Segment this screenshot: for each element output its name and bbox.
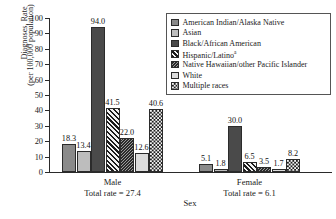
y-tick-label: 20 [35,137,43,146]
x-axis-title: Sex [184,198,197,208]
bar [149,109,163,172]
bar [272,169,286,172]
group-total-rate: Total rate = 6.1 [223,188,275,199]
y-tick-label: 30 [35,121,43,130]
legend-label: White [183,71,203,80]
checkerboard-swatch [171,82,179,90]
x-axis-line [49,172,332,173]
bar [257,167,271,172]
legend-item: American Indian/Alaska Native [171,17,326,28]
bar-value-label: 40.6 [149,99,163,108]
bar [91,27,105,172]
bar-value-label: 1.8 [215,159,225,168]
legend-item: Native Hawaiian/other Pacific Islander [171,59,326,70]
legend-item: White [171,70,326,81]
bar-value-label: 6.5 [244,152,254,161]
bar-value-label: 5.1 [201,154,211,163]
bar-chart: Diagnoses, Rate (per 100,000 population)… [0,0,336,219]
legend-label: Native Hawaiian/other Pacific Islander [183,60,308,69]
bar-value-label: 3.5 [259,157,269,166]
solid-dark-gray-swatch [171,40,179,48]
bar [286,159,300,172]
legend-footnote-marker: a [234,49,236,55]
legend: American Indian/Alaska NativeAsianBlack/… [166,13,331,95]
y-tick-mark [45,172,49,173]
group-label-male: MaleTotal rate = 27.4 [84,177,141,199]
solid-medium-gray-swatch [171,19,179,27]
y-tick-label: 10 [35,152,43,161]
bar-value-label: 94.0 [91,17,105,26]
y-tick-label: 80 [35,44,43,53]
bar-value-label: 41.5 [105,98,119,107]
group-name: Male [84,177,141,188]
bar [62,144,76,172]
y-tick-label: 100 [30,14,43,23]
bar-value-label: 22.0 [120,128,134,137]
legend-item: Asian [171,28,326,39]
legend-label: Multiple races [183,81,229,90]
bar [199,164,213,172]
legend-label: Asian [183,28,202,37]
y-tick-label: 70 [35,60,43,69]
legend-label: Black/African American [183,39,261,48]
bar [135,153,149,172]
fine-diagonal-swatch [171,61,179,69]
bar-value-label: 8.2 [288,149,298,158]
bar-value-label: 18.3 [62,134,76,143]
bar-value-label: 12.6 [134,143,148,152]
legend-label: Hispanic/Latinoa [183,48,237,60]
legend-item: Black/African American [171,38,326,49]
bar [228,126,242,172]
legend-item: Hispanic/Latinoa [171,49,326,60]
bar-value-label: 1.7 [273,159,283,168]
bar [214,169,228,172]
y-tick-label: 0 [39,168,43,177]
y-tick-label: 90 [35,29,43,38]
bar [106,108,120,172]
group-name: Female [223,177,275,188]
bar-value-label: 13.4 [76,141,90,150]
y-tick-label: 50 [35,91,43,100]
diagonal-hatch-swatch [171,50,179,58]
group-total-rate: Total rate = 27.4 [84,188,141,199]
solid-pale-gray-swatch [171,72,179,80]
legend-item: Multiple races [171,81,326,92]
bar [243,162,257,172]
y-tick-label: 40 [35,106,43,115]
legend-label: American Indian/Alaska Native [183,18,285,27]
y-tick-label: 60 [35,75,43,84]
bar [120,138,134,172]
bar-value-label: 30.0 [228,116,242,125]
solid-light-gray-swatch [171,29,179,37]
group-label-female: FemaleTotal rate = 6.1 [223,177,275,199]
bar [77,151,91,172]
